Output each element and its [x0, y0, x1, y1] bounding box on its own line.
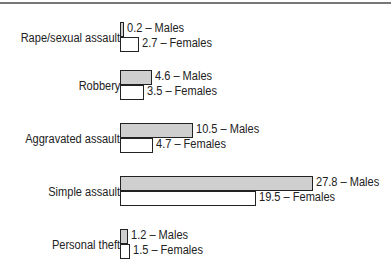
bar-females — [120, 37, 139, 52]
top-rule — [0, 2, 391, 4]
category-label: Aggravated assault — [25, 132, 120, 146]
bar-males — [120, 22, 124, 37]
value-label-males: 10.5 – Males — [196, 122, 259, 136]
bar-males — [120, 70, 152, 85]
value-label-males: 0.2 – Males — [127, 21, 184, 35]
value-label-males: 27.8 – Males — [316, 175, 379, 189]
bar-females — [120, 138, 153, 153]
bar-males — [120, 176, 313, 191]
value-label-males: 1.2 – Males — [131, 228, 188, 242]
value-label-females: 19.5 – Females — [259, 190, 335, 204]
value-label-females: 4.7 – Females — [156, 137, 226, 151]
bar-group: Simple assault27.8 – Males19.5 – Females — [0, 176, 391, 210]
bar-group: Rape/sexual assault0.2 – Males2.7 – Fema… — [0, 22, 391, 56]
category-label: Rape/sexual assault — [21, 31, 120, 45]
bar-females — [120, 191, 256, 206]
bar-males — [120, 229, 128, 244]
category-label: Robbery — [78, 79, 120, 93]
value-label-males: 4.6 – Males — [155, 69, 212, 83]
value-label-females: 2.7 – Females — [142, 36, 212, 50]
bar-females — [120, 244, 130, 259]
value-label-females: 3.5 – Females — [147, 84, 217, 98]
bar-group: Personal theft1.2 – Males1.5 – Females — [0, 229, 391, 263]
bar-males — [120, 123, 193, 138]
bar-group: Aggravated assault10.5 – Males4.7 – Fema… — [0, 123, 391, 157]
value-label-females: 1.5 – Females — [133, 243, 203, 257]
bar-females — [120, 85, 144, 100]
category-label: Personal theft — [52, 238, 120, 252]
category-label: Simple assault — [48, 185, 120, 199]
bar-group: Robbery4.6 – Males3.5 – Females — [0, 70, 391, 104]
